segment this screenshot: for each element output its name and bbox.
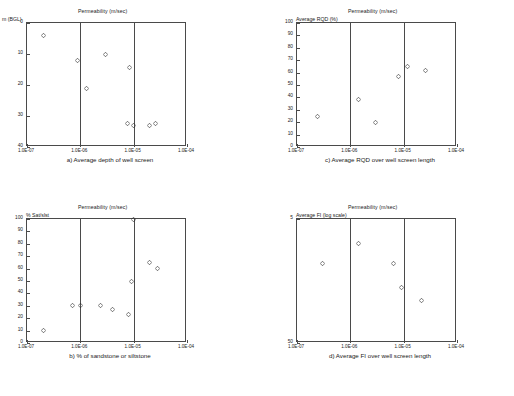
xticklabel-c-3: 1.0E-04 xyxy=(442,148,470,153)
data-point-a-2 xyxy=(84,86,89,91)
gridline-x-b-1 xyxy=(80,219,81,341)
data-point-a-1 xyxy=(75,58,80,63)
data-point-d-3 xyxy=(399,285,404,290)
xtick-d-1 xyxy=(350,340,351,343)
plot-frame-a xyxy=(26,22,186,146)
chart-panel-b: Permeability (m/sec)% Sat/slst1.0E-071.0… xyxy=(0,0,514,396)
data-point-b-5 xyxy=(126,312,131,317)
ytick-b-2 xyxy=(27,318,30,319)
yticklabel-a-1: 10 xyxy=(4,50,23,55)
ytick-a-4 xyxy=(27,147,30,148)
chart-panel-a: Permeability (m/sec)m (BGL)1.0E-071.0E-0… xyxy=(0,0,514,396)
yticklabel-b-8: 80 xyxy=(4,240,23,245)
data-point-b-7 xyxy=(131,217,136,222)
xticklabel-a-2: 1.0E-05 xyxy=(119,148,147,153)
panel-ylabel-c: Average RQD (%) xyxy=(296,16,338,22)
xticklabel-b-1: 1.0E-06 xyxy=(65,344,93,349)
gridline-x-c-1 xyxy=(350,23,351,145)
ytick-c-0 xyxy=(297,147,300,148)
xtick-c-3 xyxy=(457,144,458,147)
data-point-b-8 xyxy=(147,260,152,265)
ytick-b-5 xyxy=(27,281,30,282)
panel-title-b: Permeability (m/sec) xyxy=(78,204,127,210)
yticklabel-c-6: 60 xyxy=(274,69,293,74)
ytick-c-9 xyxy=(297,35,300,36)
ytick-a-0 xyxy=(27,23,30,24)
panel-title-d: Permeability (m/sec) xyxy=(348,204,397,210)
ytick-a-2 xyxy=(27,85,30,86)
xticklabel-c-0: 1.0E-07 xyxy=(282,148,310,153)
xtick-d-3 xyxy=(457,340,458,343)
xticklabel-d-1: 1.0E-06 xyxy=(335,344,363,349)
yticklabel-b-7: 70 xyxy=(4,252,23,257)
ytick-c-6 xyxy=(297,73,300,74)
ytick-c-1 xyxy=(297,135,300,136)
data-point-a-4 xyxy=(127,65,132,70)
data-point-a-7 xyxy=(147,123,152,128)
data-point-c-5 xyxy=(423,68,428,73)
xtick-a-0 xyxy=(27,144,28,147)
data-point-b-0 xyxy=(41,328,46,333)
panel-caption-d: d) Average FI over well screen length xyxy=(270,352,490,359)
xtick-c-1 xyxy=(350,144,351,147)
gridline-x-a-2 xyxy=(134,23,135,145)
ytick-c-3 xyxy=(297,110,300,111)
yticklabel-d-0: 50 xyxy=(274,339,293,344)
chart-panel-d: Permeability (m/sec)Average FI (log scal… xyxy=(0,0,514,396)
plot-frame-d xyxy=(296,218,456,342)
data-point-c-4 xyxy=(405,64,410,69)
data-point-b-9 xyxy=(155,266,160,271)
yticklabel-c-2: 20 xyxy=(274,118,293,123)
gridline-x-c-2 xyxy=(404,23,405,145)
yticklabel-c-1: 10 xyxy=(274,131,293,136)
xtick-b-0 xyxy=(27,340,28,343)
data-point-a-8 xyxy=(153,121,158,126)
data-point-d-0 xyxy=(320,261,325,266)
ytick-b-8 xyxy=(27,244,30,245)
yticklabel-b-9: 90 xyxy=(4,227,23,232)
data-point-b-2 xyxy=(78,303,83,308)
xticklabel-a-1: 1.0E-06 xyxy=(65,148,93,153)
panel-caption-c: c) Average RQD over well screen length xyxy=(270,156,490,163)
yticklabel-b-5: 50 xyxy=(4,277,23,282)
chart-panel-c: Permeability (m/sec)Average RQD (%)1.0E-… xyxy=(0,0,514,396)
data-point-c-1 xyxy=(356,97,361,102)
panel-ylabel-d: Average FI (log scale) xyxy=(296,212,347,218)
xticklabel-a-0: 1.0E-07 xyxy=(12,148,40,153)
xticklabel-b-2: 1.0E-05 xyxy=(119,344,147,349)
yticklabel-b-2: 20 xyxy=(4,314,23,319)
ytick-b-3 xyxy=(27,306,30,307)
ytick-b-7 xyxy=(27,256,30,257)
panel-title-c: Permeability (m/sec) xyxy=(348,8,397,14)
panel-caption-a: a) Average depth of well screen xyxy=(0,156,220,163)
gridline-x-d-2 xyxy=(404,219,405,341)
yticklabel-c-9: 90 xyxy=(274,31,293,36)
data-point-b-4 xyxy=(110,307,115,312)
data-point-b-1 xyxy=(70,303,75,308)
plot-frame-c xyxy=(296,22,456,146)
ytick-c-4 xyxy=(297,97,300,98)
gridline-x-d-1 xyxy=(350,219,351,341)
data-point-c-0 xyxy=(315,114,320,119)
yticklabel-c-5: 50 xyxy=(274,81,293,86)
xticklabel-b-3: 1.0E-04 xyxy=(172,344,200,349)
ytick-a-1 xyxy=(27,54,30,55)
xtick-c-0 xyxy=(297,144,298,147)
ytick-c-5 xyxy=(297,85,300,86)
data-point-c-2 xyxy=(373,120,378,125)
yticklabel-d-1: 5 xyxy=(274,215,293,220)
yticklabel-b-3: 30 xyxy=(4,302,23,307)
ytick-c-8 xyxy=(297,48,300,49)
data-point-a-5 xyxy=(125,121,130,126)
yticklabel-c-7: 70 xyxy=(274,56,293,61)
data-point-a-6 xyxy=(131,123,136,128)
ytick-b-0 xyxy=(27,343,30,344)
xticklabel-d-3: 1.0E-04 xyxy=(442,344,470,349)
xtick-b-1 xyxy=(80,340,81,343)
panel-caption-b: b) % of sandstone or siltstone xyxy=(0,352,220,359)
panel-ylabel-b: % Sat/slst xyxy=(26,212,49,218)
data-point-c-3 xyxy=(396,74,401,79)
xtick-a-2 xyxy=(134,144,135,147)
panel-title-a: Permeability (m/sec) xyxy=(78,8,127,14)
xticklabel-c-1: 1.0E-06 xyxy=(335,148,363,153)
